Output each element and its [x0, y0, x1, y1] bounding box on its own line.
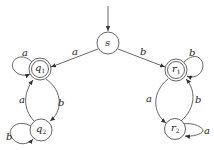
- state-q1: q1: [29, 58, 51, 80]
- edge-label-q2-q1: a: [19, 94, 25, 105]
- edge-r2-self: [183, 124, 203, 137]
- edge-q2-self: [10, 123, 33, 143]
- edge-r2-r1: [181, 79, 193, 121]
- edge-label-q2-self: b: [6, 131, 12, 142]
- state-label-s: s: [105, 37, 110, 48]
- edge-label-s-r1: b: [140, 46, 146, 57]
- edge-label-r2-self: a: [204, 125, 210, 136]
- edge-label-s-q1: a: [72, 46, 78, 57]
- edge-label-q1-q2: b: [58, 97, 64, 108]
- automaton-diagram: a b a b a b b a b a s q1 q2 r1: [0, 0, 214, 150]
- edge-q2-q1: [26, 80, 34, 121]
- edge-label-r1-r2: a: [146, 93, 152, 104]
- state-s: s: [97, 32, 119, 54]
- state-q2: q2: [30, 119, 52, 141]
- edge-r1-r2: [156, 79, 168, 123]
- state-r2: r2: [165, 119, 186, 140]
- edge-label-r2-r1: b: [195, 94, 201, 105]
- edge-label-q1-self: a: [22, 47, 28, 58]
- edge-label-r1-self: b: [189, 47, 195, 58]
- state-r1: r1: [165, 59, 187, 81]
